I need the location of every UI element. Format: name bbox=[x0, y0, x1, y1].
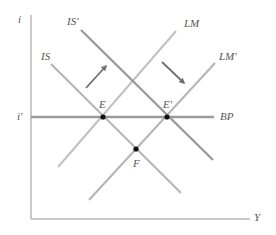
lm-curve bbox=[58, 31, 176, 167]
lm-label: LM bbox=[184, 18, 199, 29]
is-curve bbox=[51, 64, 181, 193]
point-f-label: F bbox=[133, 158, 140, 169]
is-prime-curve bbox=[81, 30, 213, 160]
lm-prime-curve bbox=[89, 63, 215, 200]
is-lm-bp-diagram: i Y i' IS IS' LM LM' BP E E' F bbox=[0, 0, 276, 235]
point-e-prime-label: E' bbox=[163, 99, 172, 110]
is-label: IS bbox=[41, 51, 50, 62]
is-prime-label: IS' bbox=[67, 16, 79, 27]
point-e-label: E bbox=[99, 99, 106, 110]
lm-prime-label: LM' bbox=[219, 51, 237, 62]
is-shift-arrow-icon bbox=[86, 66, 106, 88]
y-axis-label: i bbox=[18, 14, 21, 25]
point-e bbox=[100, 114, 105, 119]
x-axis-label: Y bbox=[254, 212, 260, 223]
bp-label: BP bbox=[220, 111, 233, 122]
point-f bbox=[133, 146, 138, 151]
diagram-canvas bbox=[0, 0, 276, 235]
lm-shift-arrow-icon bbox=[162, 62, 184, 83]
point-e-prime bbox=[164, 114, 169, 119]
i-prime-tick-label: i' bbox=[17, 111, 22, 122]
